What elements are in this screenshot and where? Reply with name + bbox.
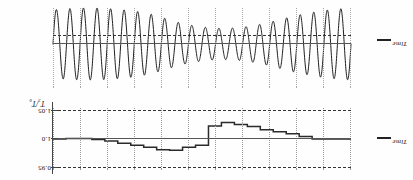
gridline-v: [188, 108, 189, 170]
gridline-v: [134, 8, 135, 88]
gridline-v: [242, 8, 243, 88]
gridline-v: [161, 108, 162, 170]
gridline-v: [53, 108, 54, 170]
step-plot-area: [53, 108, 351, 170]
step-trace: [53, 108, 351, 170]
gridline-v: [296, 108, 297, 170]
gridline-v: [80, 108, 81, 170]
waveform-panel: Time: [0, 0, 413, 92]
waveform-reference-line: [53, 35, 351, 36]
gridline-v: [80, 8, 81, 88]
waveform-trace: [53, 8, 351, 88]
waveform-plot-area: [53, 8, 351, 88]
gridline-v: [323, 8, 324, 88]
step-panel: Time 0.95: [0, 92, 413, 180]
gridline-v: [296, 8, 297, 88]
y-tick-label-100: 1.0: [1, 135, 51, 143]
y-tick-mark: [51, 110, 58, 111]
step-panel-time-label: Time: [392, 138, 407, 146]
gridline-v: [323, 108, 324, 170]
waveform-zero-axis: [53, 43, 351, 44]
gridline-v: [350, 8, 351, 88]
reference-line-lower: [53, 110, 351, 111]
scientific-figure: Time 0.95: [0, 0, 413, 180]
waveform-panel-time-axis-stub: [377, 39, 391, 41]
gridline-v: [107, 108, 108, 170]
y-tick-mark: [51, 167, 58, 168]
reference-line-unity: [53, 138, 351, 139]
reference-line-upper: [53, 167, 351, 168]
gridline-v: [215, 108, 216, 170]
gridline-v: [161, 8, 162, 88]
gridline-v: [242, 108, 243, 170]
gridline-v: [269, 108, 270, 170]
y-tick-label-105: 1.05: [1, 107, 51, 115]
gridline-v: [188, 8, 189, 88]
gridline-v: [269, 8, 270, 88]
gridline-v: [215, 8, 216, 88]
gridline-v: [134, 108, 135, 170]
y-tick-mark: [51, 138, 58, 139]
y-tick-label-095: 0.95: [1, 164, 51, 172]
gridline-v: [350, 108, 351, 170]
step-panel-time-axis-stub: [377, 137, 391, 139]
waveform-panel-time-label: Time: [392, 40, 407, 48]
gridline-v: [53, 8, 54, 88]
y-axis-label: T₃/T₀: [1, 99, 45, 108]
gridline-v: [107, 8, 108, 88]
